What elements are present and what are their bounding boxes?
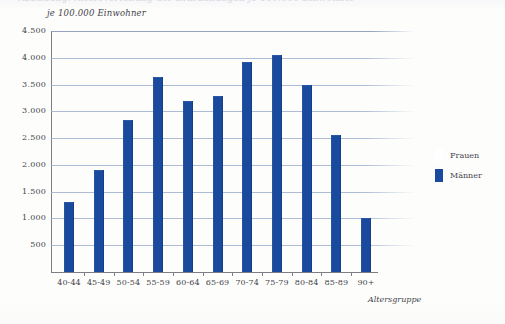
x-axis-tick [114,272,115,276]
gridline-3.500 [51,85,415,86]
y-axis-tick-label: 500 [4,240,46,249]
legend-item-männer[interactable]: Männer [435,169,482,182]
legend-swatch-icon [435,149,443,162]
y-axis-line [51,31,52,272]
y-axis-labels: 5001.0001.5002.0002.5003.0003.5004.0004.… [0,31,46,272]
y-axis-tick-label: 3.500 [4,80,46,89]
legend-swatch-icon [435,169,443,182]
gridline-3.000 [51,111,415,112]
bar-55-59 [153,77,163,272]
bar-40-44 [64,202,74,272]
gridline-4.500 [51,31,415,32]
x-axis-label-90+: 90+ [344,278,388,287]
legend-item-frauen[interactable]: Frauen [435,149,479,162]
legend-label: Männer [450,171,482,180]
x-axis-tick [84,272,85,276]
bar-75-79 [272,55,282,272]
bar-85-89 [331,135,341,272]
x-axis-title: Altersgruppe [368,295,421,304]
bar-60-64 [183,101,193,272]
gridline-1.500 [51,192,415,193]
bar-chart: je 100.000 Einwohner 5001.0001.5002.0002… [0,0,505,324]
x-axis-line [51,272,378,273]
legend-label: Frauen [450,151,479,160]
bar-90+ [361,218,371,272]
y-axis-tick-label: 3.000 [4,106,46,115]
x-axis-tick [351,272,352,276]
gridline-2.500 [51,138,415,139]
bar-50-54 [123,120,133,272]
x-axis-tick [203,272,204,276]
y-axis-tick-label: 2.000 [4,160,46,169]
y-axis-tick-label: 1.500 [4,187,46,196]
bar-70-74 [242,62,252,272]
x-axis-tick [262,272,263,276]
bar-80-84 [302,85,312,272]
chart-subtitle: je 100.000 Einwohner [47,8,146,18]
plot-area [51,31,415,272]
y-axis-tick-label: 2.500 [4,133,46,142]
x-axis-tick [143,272,144,276]
gridline-2.000 [51,165,415,166]
x-axis-tick [321,272,322,276]
gridline-4.000 [51,58,415,59]
bar-65-69 [213,96,223,272]
y-axis-tick-label: 4.000 [4,53,46,62]
x-axis-tick [232,272,233,276]
bar-45-49 [94,170,104,272]
x-axis-tick [173,272,174,276]
y-axis-tick-label: 4.500 [4,26,46,35]
y-axis-tick-label: 1.000 [4,213,46,222]
x-axis-tick [292,272,293,276]
